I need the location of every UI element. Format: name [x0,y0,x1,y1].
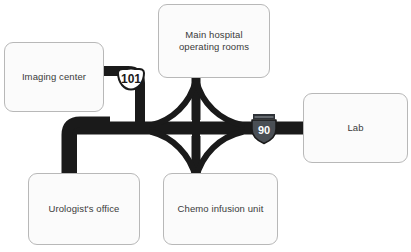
shield-interstate-90[interactable]: 90 [250,113,278,145]
node-main-hospital-label: Main hospital operating rooms [173,29,255,54]
ramp-upper-right [196,80,242,125]
node-chemo-infusion-unit[interactable]: Chemo infusion unit [163,173,278,245]
node-chemo-infusion-unit-label: Chemo infusion unit [172,203,270,216]
node-urologists-office[interactable]: Urologist's office [28,173,140,245]
shield-interstate-90-number: 90 [258,124,270,136]
node-lab-label: Lab [341,122,369,135]
shield-route-101-number: 101 [121,72,141,86]
shield-route-101[interactable]: 101 [116,67,146,91]
node-lab[interactable]: Lab [303,93,408,163]
node-main-hospital[interactable]: Main hospital operating rooms [158,4,270,78]
node-urologists-office-label: Urologist's office [42,203,125,216]
ramp-lower-left [152,132,196,178]
ramp-lower-right [196,132,242,178]
node-imaging-center-label: Imaging center [16,71,92,84]
ramp-upper-left [152,80,196,125]
diagram-canvas: Imaging center Main hospital operating r… [0,0,411,252]
node-imaging-center[interactable]: Imaging center [4,42,104,112]
